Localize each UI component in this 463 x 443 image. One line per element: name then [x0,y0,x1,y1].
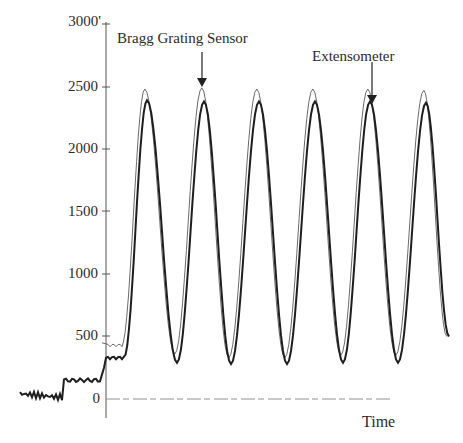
annotation-bragg-grating-sensor: Bragg Grating Sensor [117,30,248,47]
bragg-arrow-icon [197,52,207,87]
extensometer-arrow-icon [367,62,377,104]
x-axis-label: Time [362,413,395,431]
y-tick-0: 0 [40,390,100,407]
chart-plot-area [0,0,463,443]
y-tick-3000: 3000' [41,13,101,30]
y-tick-500: 500 [38,327,98,344]
y-tick-2000: 2000 [38,140,98,157]
y-tick-1500: 1500 [38,203,98,220]
annotation-extensometer: Extensometer [312,48,394,65]
y-tick-2500: 2500 [38,78,98,95]
y-tick-1000: 1000 [38,265,98,282]
